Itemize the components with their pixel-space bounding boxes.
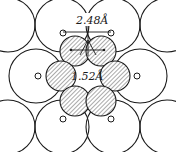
atomic-packing-diagram: 2.48Å 1.52Å bbox=[0, 0, 176, 152]
large-atom-1 bbox=[0, 0, 35, 52]
open-small-atom-1 bbox=[60, 30, 66, 36]
measure-dot-right bbox=[103, 49, 106, 52]
large-atom-7 bbox=[0, 100, 35, 152]
large-atom-4 bbox=[140, 0, 176, 52]
open-small-atom-5 bbox=[60, 116, 66, 122]
measure-dot-left bbox=[70, 49, 73, 52]
hatched-atom-6 bbox=[86, 86, 116, 116]
open-small-atom-6 bbox=[108, 116, 114, 122]
open-small-atom-4 bbox=[134, 73, 140, 79]
large-atom-10 bbox=[140, 100, 176, 152]
open-small-atom-3 bbox=[35, 73, 41, 79]
distance-label-top: 2.48Å bbox=[75, 13, 108, 27]
open-small-atom-2 bbox=[108, 30, 114, 36]
distance-label-center: 1.52Å bbox=[71, 69, 103, 83]
